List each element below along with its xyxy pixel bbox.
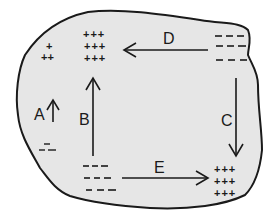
arrow-a-label: A xyxy=(34,106,45,123)
svg-text:+++: +++ xyxy=(83,28,105,40)
arrow-d-label: D xyxy=(163,30,175,47)
svg-text:+++: +++ xyxy=(84,40,106,52)
arrow-e-label: E xyxy=(154,159,165,176)
charge-group-top-left-large: +++ +++ +++ xyxy=(83,28,106,64)
svg-text:+++: +++ xyxy=(84,52,106,64)
svg-text:+++: +++ xyxy=(214,163,236,175)
svg-text:+++: +++ xyxy=(214,175,236,187)
arrow-c-label: C xyxy=(221,112,233,129)
svg-text:++: ++ xyxy=(41,51,54,63)
charge-group-bottom-right: +++ +++ +++ xyxy=(214,163,236,199)
arrow-b-label: B xyxy=(79,111,90,128)
svg-text:+++: +++ xyxy=(214,187,236,199)
charge-diagram: + ++ +++ +++ +++ D C B A xyxy=(0,0,278,224)
